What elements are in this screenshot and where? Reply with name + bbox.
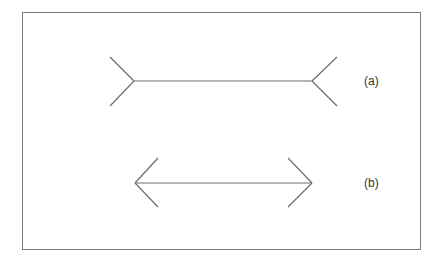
figure-a-right-fin-lower bbox=[312, 81, 337, 106]
figure-a-label: (a) bbox=[364, 74, 379, 88]
figure-a-right-fin-upper bbox=[312, 57, 337, 81]
figure-b bbox=[135, 158, 312, 207]
figure-b-label: (b) bbox=[364, 176, 379, 190]
diagram-canvas: (a) (b) bbox=[0, 0, 439, 266]
figure-a bbox=[110, 57, 337, 106]
figure-b-left-arrowhead-lower bbox=[135, 183, 158, 207]
figure-b-right-arrowhead-lower bbox=[288, 183, 312, 207]
figure-b-right-arrowhead-upper bbox=[288, 158, 312, 183]
figure-b-left-arrowhead-upper bbox=[135, 158, 158, 183]
muller-lyer-figures bbox=[0, 0, 439, 266]
figure-a-left-fin-lower bbox=[110, 81, 134, 106]
figure-a-left-fin-upper bbox=[110, 57, 134, 81]
